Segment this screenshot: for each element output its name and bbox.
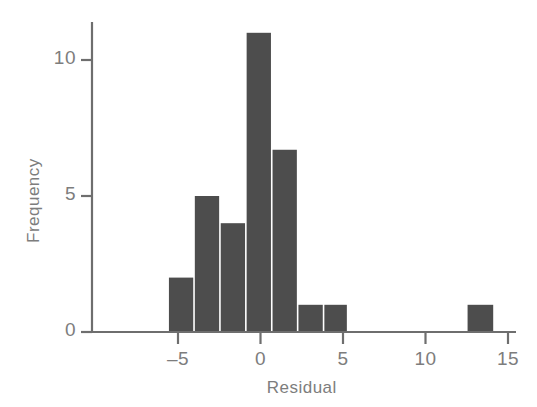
histogram-bar (195, 196, 219, 332)
histogram-bar (221, 223, 245, 332)
y-tick-label: 5 (65, 183, 76, 205)
histogram-bar (169, 278, 193, 332)
plot-area (0, 0, 537, 407)
x-axis-title: Residual (267, 378, 337, 398)
histogram-bar (273, 150, 297, 332)
y-axis-title: Frequency (24, 158, 44, 243)
x-tick-label: –5 (167, 348, 189, 370)
histogram-bar (468, 305, 494, 332)
y-ticks-group (81, 60, 92, 332)
x-tick-label: 0 (255, 348, 266, 370)
x-tick-label: 10 (414, 348, 436, 370)
y-tick-label: 0 (65, 319, 76, 341)
histogram-bar (298, 305, 322, 332)
histogram-bar (247, 33, 271, 332)
histogram-figure: 0510 –5051015 Residual Frequency (0, 0, 537, 407)
x-tick-label: 15 (497, 348, 519, 370)
x-ticks-group (178, 332, 508, 344)
bars-group (169, 33, 493, 332)
axes-group (92, 22, 516, 332)
x-tick-label: 5 (337, 348, 348, 370)
histogram-bar (324, 305, 346, 332)
y-tick-label: 10 (54, 47, 76, 69)
